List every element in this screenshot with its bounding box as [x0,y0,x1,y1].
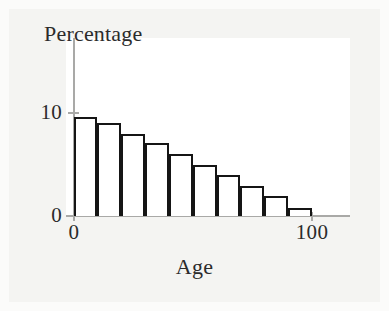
x-axis-line [66,215,350,217]
y-axis-title: Percentage [44,22,143,46]
x-axis-title: Age [0,255,389,279]
y-axis-line [73,38,75,217]
plot-canvas [66,38,350,216]
y-tick-mark-10 [68,112,79,114]
histogram-figure: 10 0 0 100 Percentage Age [0,0,389,311]
y-tick-label-10: 10 [0,102,62,123]
x-tick-label-100: 100 [282,222,342,243]
x-tick-label-0: 0 [49,222,99,243]
